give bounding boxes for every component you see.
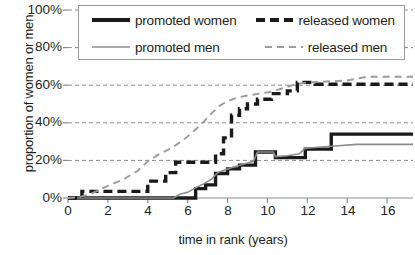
series-line-released-men — [68, 77, 413, 198]
legend-swatch-dashed-thick-black — [255, 14, 295, 26]
legend-item-promoted-men: promoted men — [91, 40, 220, 55]
legend-swatch-solid-thick-black — [91, 14, 131, 26]
legend-item-released-women: released women — [255, 13, 395, 28]
data-series-layer — [68, 77, 413, 198]
legend-label: released men — [308, 40, 387, 55]
legend-swatch-solid-thin-gray — [91, 41, 131, 53]
legend-label: released women — [299, 13, 395, 28]
legend-label: promoted women — [135, 13, 237, 28]
legend-label: promoted men — [135, 40, 220, 55]
legend-item-released-men: released men — [264, 40, 387, 55]
legend-item-promoted-women: promoted women — [91, 13, 237, 28]
series-line-released-women — [68, 82, 413, 198]
legend-swatch-dashed-thin-gray — [264, 41, 304, 53]
chart-container: proportion of women or men 100% 80% 60% … — [0, 0, 415, 255]
legend: promoted women released women promoted m… — [78, 5, 405, 60]
